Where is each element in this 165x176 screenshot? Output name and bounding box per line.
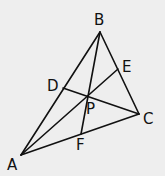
labels-group: ABCDEFP (7, 11, 153, 174)
cevian-CD-line (63, 88, 139, 114)
triangle-diagram: ABCDEFP (0, 0, 165, 176)
label-d: D (47, 77, 59, 95)
label-b: B (94, 11, 104, 29)
label-p: P (86, 100, 95, 118)
cevian-AE-line (21, 69, 118, 155)
side-BC-line (100, 32, 139, 114)
label-a: A (7, 156, 18, 174)
label-e: E (122, 58, 131, 76)
diagram-canvas: ABCDEFP (0, 0, 165, 176)
label-f: F (76, 136, 85, 154)
label-c: C (143, 110, 153, 128)
